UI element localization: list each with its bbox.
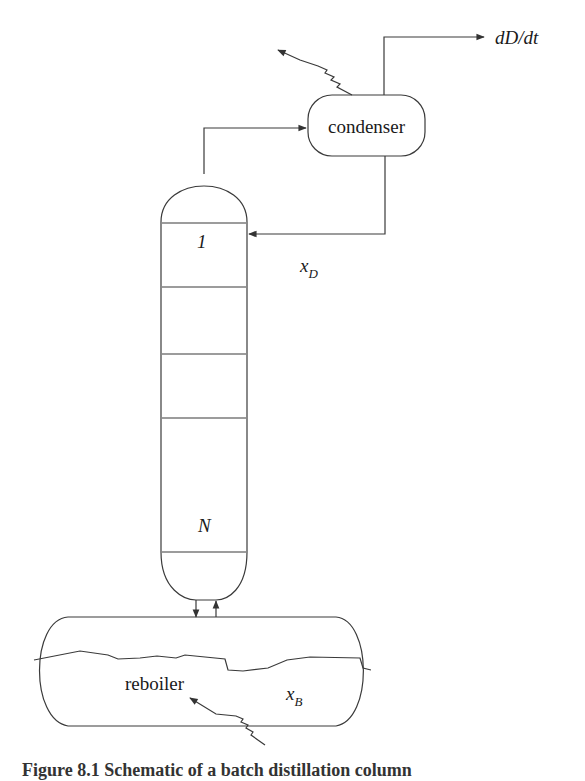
distillate-line: [384, 37, 484, 95]
reflux-line: [249, 156, 385, 234]
reboiler-label: reboiler: [125, 674, 184, 693]
distillate-rate-label: dD/dt: [495, 28, 538, 47]
condenser-label: condenser: [328, 117, 405, 136]
reboiler-heat-icon: [190, 698, 265, 745]
column-bottom-dome: [161, 552, 247, 600]
top-tray-label: 1: [197, 232, 207, 251]
column-top-dome: [161, 186, 247, 222]
figure-caption: Figure 8.1 Schematic of a batch distilla…: [22, 760, 412, 781]
condenser-heat-icon: [278, 50, 352, 95]
bottom-tray-label: N: [198, 516, 211, 535]
distillate-composition-label: xD: [300, 256, 318, 275]
reboiler-vessel: [40, 617, 364, 726]
vapor-line: [204, 128, 306, 174]
bottoms-composition-label: xB: [286, 684, 302, 703]
liquid-level: [34, 651, 371, 671]
